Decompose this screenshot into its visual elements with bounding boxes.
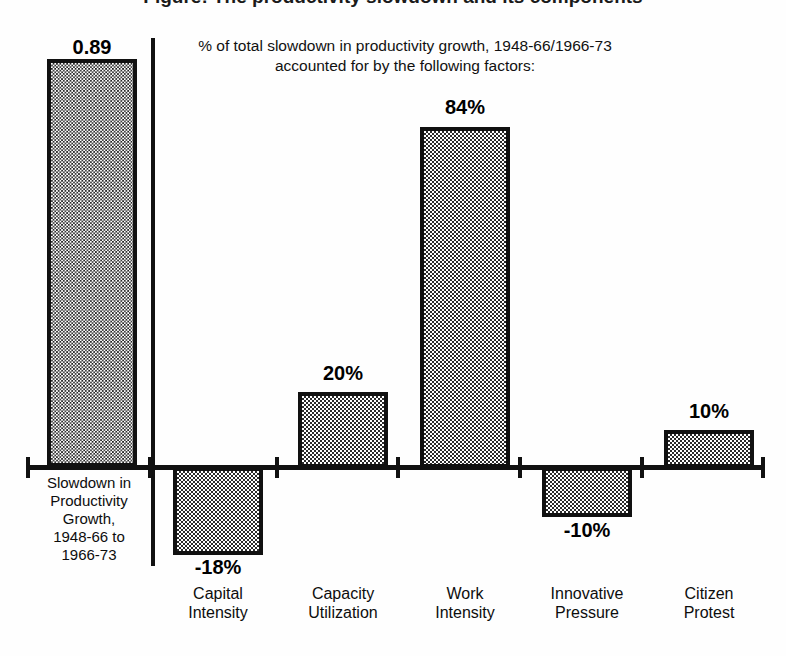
axis-tick-end xyxy=(761,457,765,478)
category-label-work-intensity: Work Intensity xyxy=(405,584,525,622)
panel-divider xyxy=(151,38,155,566)
left-axis-line-5: 1966-73 xyxy=(30,546,148,564)
value-label-slowdown: 0.89 xyxy=(17,36,167,59)
axis-tick-1 xyxy=(275,457,279,478)
axis-tick-2 xyxy=(396,457,400,478)
axis-tick-panel1-end xyxy=(148,457,152,478)
category-label-capital-intensity-line-2: Intensity xyxy=(158,603,278,622)
axis-tick-4 xyxy=(640,457,644,478)
category-label-work-intensity-line-1: Work xyxy=(405,584,525,603)
category-label-capacity-utilization-line-1: Capacity xyxy=(283,584,403,603)
value-label-citizen-protest: 10% xyxy=(654,400,764,423)
category-label-capacity-utilization-line-2: Utilization xyxy=(283,603,403,622)
bar-capital-intensity xyxy=(173,467,263,555)
category-label-capital-intensity-line-1: Capital xyxy=(158,584,278,603)
category-label-citizen-protest-line-2: Protest xyxy=(649,603,769,622)
left-axis-line-1: Slowdown in xyxy=(30,474,148,492)
category-label-work-intensity-line-2: Intensity xyxy=(405,603,525,622)
chart-caption: % of total slowdown in productivity grow… xyxy=(170,36,640,76)
left-axis-line-3: Growth, xyxy=(30,510,148,528)
category-label-citizen-protest: Citizen Protest xyxy=(649,584,769,622)
bar-innovative-pressure xyxy=(542,467,632,517)
axis-baseline-left xyxy=(26,465,152,470)
value-label-innovative-pressure: -10% xyxy=(532,519,642,542)
bar-capacity-utilization xyxy=(298,392,388,468)
value-label-capital-intensity: -18% xyxy=(163,556,273,579)
category-label-innovative-pressure: Innovative Pressure xyxy=(527,584,647,622)
category-label-innovative-pressure-line-1: Innovative xyxy=(527,584,647,603)
value-label-work-intensity: 84% xyxy=(410,96,520,119)
caption-line-2: accounted for by the following factors: xyxy=(170,56,640,76)
bar-citizen-protest xyxy=(664,430,754,468)
bar-work-intensity xyxy=(420,127,510,468)
category-label-capital-intensity: Capital Intensity xyxy=(158,584,278,622)
category-label-capacity-utilization: Capacity Utilization xyxy=(283,584,403,622)
bar-chart-figure: Figure: The productivity slowdown and it… xyxy=(0,0,786,656)
left-axis-line-2: Productivity xyxy=(30,492,148,510)
value-label-capacity-utilization: 20% xyxy=(288,362,398,385)
clipped-figure-title: Figure: The productivity slowdown and it… xyxy=(0,0,786,8)
axis-tick-3 xyxy=(518,457,522,478)
left-axis-description: Slowdown in Productivity Growth, 1948-66… xyxy=(30,474,148,564)
bar-slowdown-in-productivity-growth xyxy=(47,59,137,467)
category-label-innovative-pressure-line-2: Pressure xyxy=(527,603,647,622)
caption-line-1: % of total slowdown in productivity grow… xyxy=(170,36,640,56)
left-axis-line-4: 1948-66 to xyxy=(30,528,148,546)
category-label-citizen-protest-line-1: Citizen xyxy=(649,584,769,603)
